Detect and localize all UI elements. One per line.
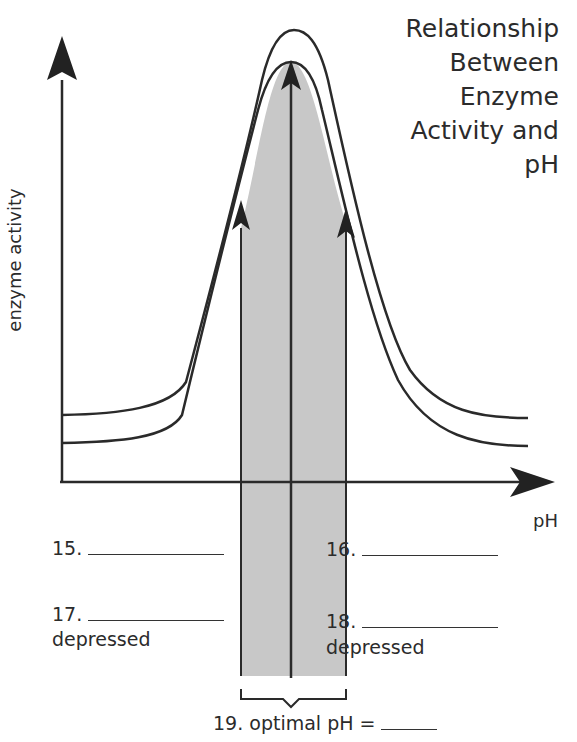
note-17: depressed bbox=[52, 628, 150, 650]
title-line: Activity and bbox=[359, 114, 559, 148]
question-number: 15. bbox=[52, 537, 82, 559]
question-number: 16. bbox=[326, 538, 356, 560]
answer-blank-15[interactable] bbox=[88, 553, 224, 555]
question-number: 18. bbox=[326, 610, 356, 632]
answer-blank-19[interactable] bbox=[381, 728, 437, 730]
x-axis-label: pH bbox=[533, 510, 558, 531]
title-line: Between bbox=[359, 46, 559, 80]
answer-blank-16[interactable] bbox=[362, 554, 498, 556]
title-line: Relationship bbox=[359, 12, 559, 46]
question-17: 17. bbox=[52, 603, 224, 625]
question-19: 19. optimal pH = bbox=[213, 712, 437, 734]
answer-blank-18[interactable] bbox=[362, 626, 498, 628]
y-axis-label: enzyme activity bbox=[4, 150, 30, 370]
note-18: depressed bbox=[326, 636, 424, 658]
optimal-bracket bbox=[241, 689, 346, 707]
title-line: pH bbox=[359, 148, 559, 182]
question-16: 16. bbox=[326, 538, 498, 560]
question-text: 19. optimal pH = bbox=[213, 712, 375, 734]
question-15: 15. bbox=[52, 537, 224, 559]
diagram-title: Relationship Between Enzyme Activity and… bbox=[359, 12, 559, 182]
y-axis-arrow-icon bbox=[47, 36, 77, 80]
answer-blank-17[interactable] bbox=[88, 619, 224, 621]
title-line: Enzyme bbox=[359, 80, 559, 114]
question-18: 18. bbox=[326, 610, 498, 632]
question-number: 17. bbox=[52, 603, 82, 625]
optimal-region-shade bbox=[241, 62, 346, 676]
